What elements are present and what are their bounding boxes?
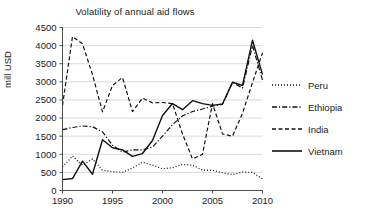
legend-item-peru[interactable]: Peru (272, 74, 367, 96)
series-line-india (63, 37, 263, 159)
dashed-line-swatch (272, 124, 302, 134)
axes (63, 28, 263, 191)
x-tick-label: 2000 (152, 195, 173, 206)
y-axis-ticks: 450040003500300025002000150010005000 (35, 22, 62, 196)
x-tick-label: 2005 (202, 195, 223, 206)
x-tick-label: 1995 (102, 195, 123, 206)
data-series-group (63, 37, 263, 180)
y-tick-label: 2000 (35, 112, 56, 123)
aid-flows-line-chart: Volatility of annual aid flows mill USD … (0, 0, 367, 220)
legend-label: Vietnam (308, 146, 343, 157)
y-tick-label: 3500 (35, 58, 56, 69)
dash-dot-line-swatch (272, 102, 302, 112)
legend-label: Ethiopia (308, 102, 342, 113)
legend-label: Peru (308, 80, 328, 91)
dotted-line-swatch (272, 80, 302, 90)
x-tick-label: 1990 (52, 195, 73, 206)
y-tick-label: 3000 (35, 76, 56, 87)
y-tick-label: 4000 (35, 40, 56, 51)
y-tick-label: 2500 (35, 94, 56, 105)
legend-item-ethiopia[interactable]: Ethiopia (272, 96, 367, 118)
legend-label: India (308, 124, 329, 135)
y-tick-label: 500 (41, 167, 57, 178)
solid-line-swatch (272, 146, 302, 156)
chart-legend: PeruEthiopiaIndiaVietnam (272, 74, 367, 162)
y-tick-label: 1500 (35, 131, 56, 142)
legend-item-india[interactable]: India (272, 118, 367, 140)
x-axis-ticks: 19901995200020052010 (52, 191, 273, 206)
x-tick-label: 2010 (252, 195, 273, 206)
series-line-peru (63, 156, 263, 179)
y-tick-label: 1000 (35, 149, 56, 160)
y-tick-label: 4500 (35, 22, 56, 33)
gridlines (63, 28, 263, 173)
legend-item-vietnam[interactable]: Vietnam (272, 140, 367, 162)
